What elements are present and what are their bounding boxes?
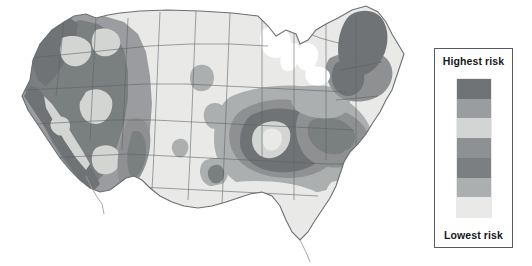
legend-swatch-lowest-risk [457, 197, 491, 217]
legend-swatch-moderate-risk [457, 138, 491, 158]
risk-legend: Highest risk Lowest risk [434, 48, 513, 248]
legend-swatch-low-moderate-risk [457, 158, 491, 178]
legend-swatch-highest-risk [457, 79, 491, 99]
figure-canvas: Highest risk Lowest risk [0, 0, 532, 266]
legend-lowest-risk-label: Lowest risk [444, 230, 503, 241]
zone-charleston-sc [340, 149, 362, 173]
zone-florida-peninsula [322, 181, 356, 243]
legend-swatch-high-risk [457, 118, 491, 138]
legend-color-scale [457, 79, 491, 217]
legend-swatch-very-high-risk [457, 99, 491, 119]
florida-keys-outline [300, 240, 310, 262]
legend-highest-risk-label: Highest risk [443, 56, 504, 67]
legend-swatch-low-risk [457, 178, 491, 198]
